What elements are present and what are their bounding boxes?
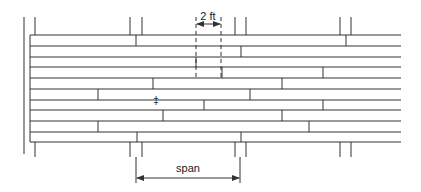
support-posts: [35, 17, 351, 157]
nail-mark: ‡: [153, 95, 159, 106]
two-foot-dimension: 2 ft: [196, 10, 221, 78]
decking-span-diagram: 2 ft span ‡: [0, 0, 421, 192]
span-dimension: span: [136, 157, 240, 183]
deck-boards: [30, 35, 401, 142]
span-label: span: [176, 162, 200, 174]
nail-mark-icon: ‡: [153, 95, 159, 106]
two-foot-label: 2 ft: [200, 10, 215, 22]
